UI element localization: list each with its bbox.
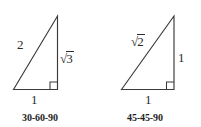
triangle-45-45-90-base-label: 1: [145, 93, 152, 106]
triangle-30-60-90-outline: [14, 16, 58, 90]
triangle-30-60-90-base-label: 1: [31, 93, 38, 106]
triangle-30-60-90-hypotenuse-label: 2: [17, 38, 24, 51]
triangle-30-60-90-shape: [14, 16, 58, 90]
special-right-triangles-figure: 2 √3 1 30-60-90 √2 1 1 45-45-90: [0, 0, 201, 127]
radical-sqrt2: √2: [131, 34, 145, 49]
right-angle-icon-left: [50, 82, 58, 90]
radicand-sqrt3: 3: [66, 51, 74, 66]
triangle-30-60-90-vertical-label: √3: [60, 51, 74, 66]
triangle-30-60-90-caption: 30-60-90: [22, 112, 58, 123]
triangle-45-45-90-hypotenuse-label: √2: [131, 34, 145, 49]
triangle-45-45-90-vertical-label: 1: [178, 51, 185, 64]
radical-sqrt3: √3: [60, 51, 74, 66]
triangle-45-45-90-shape: [122, 16, 175, 90]
triangles-svg: [0, 0, 201, 127]
right-angle-icon-right: [167, 82, 175, 90]
triangle-45-45-90-caption: 45-45-90: [127, 112, 163, 123]
triangle-45-45-90-outline: [122, 16, 175, 90]
radicand-sqrt2: 2: [137, 34, 145, 49]
